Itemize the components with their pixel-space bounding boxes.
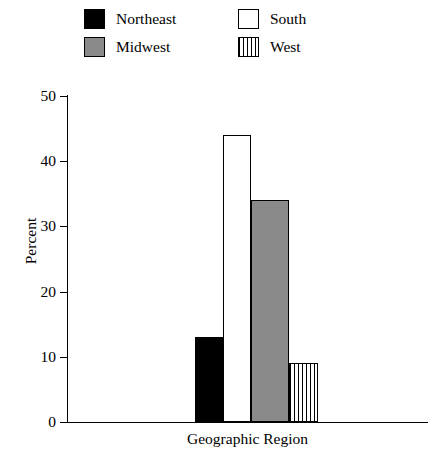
x-axis-line: [67, 422, 428, 423]
bar-northeast: [195, 337, 223, 422]
y-axis-line: [67, 95, 68, 423]
y-axis-tick-label: 50: [41, 88, 57, 104]
y-axis-tick-label: 40: [41, 153, 57, 169]
y-axis-tick: [60, 161, 67, 162]
bar-west: [289, 363, 318, 422]
y-axis-tick: [60, 96, 67, 97]
y-axis-tick: [60, 422, 67, 423]
y-axis-tick-label: 20: [41, 284, 57, 300]
y-axis-title: Percent: [22, 201, 40, 281]
y-axis-tick: [60, 357, 67, 358]
y-axis-tick-label: 30: [41, 218, 57, 234]
y-axis-tick: [60, 292, 67, 293]
y-axis-tick-label: 0: [48, 414, 56, 430]
bar-chart: 0 10 20 30 40 50 Percent Geographic Regi…: [0, 0, 448, 460]
x-axis-title: Geographic Region: [67, 430, 428, 448]
bar-south: [223, 135, 251, 422]
y-axis-tick-label: 10: [41, 349, 57, 365]
bar-midwest: [251, 200, 289, 422]
y-axis-tick: [60, 226, 67, 227]
